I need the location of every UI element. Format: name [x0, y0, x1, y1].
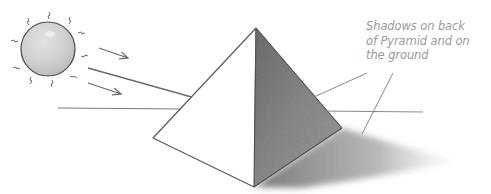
annotation-line-1: Shadows on back — [366, 19, 491, 34]
shadow-annotation-label: Shadows on back of Pyramid and on the gr… — [366, 19, 491, 63]
horizon-line-right — [322, 111, 423, 112]
leader-line-face — [314, 73, 367, 97]
ray-arrow-top — [99, 48, 128, 58]
sun-icon — [11, 12, 88, 87]
annotation-line-3: the ground — [366, 48, 491, 63]
horizon-line-left — [58, 108, 182, 109]
ray-arrow-lower — [88, 83, 121, 94]
pyramid-lit-face — [153, 28, 256, 187]
leader-line-ground — [362, 73, 393, 134]
annotation-line-2: of Pyramid and on — [366, 34, 491, 49]
